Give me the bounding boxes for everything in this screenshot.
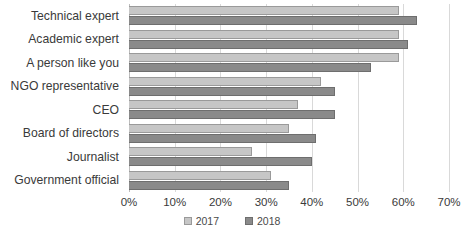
bar-2017-journalist[interactable]	[129, 147, 252, 156]
bar-2018-ceo[interactable]	[129, 110, 335, 119]
legend-item-2018[interactable]: 2018	[245, 216, 280, 227]
legend-swatch-2018-icon	[245, 217, 253, 225]
value-tick-60pct: 60%	[392, 194, 415, 210]
bar-2018-a-person-like-you[interactable]	[129, 63, 371, 72]
category-axis: Technical expert Academic expert A perso…	[0, 4, 124, 192]
value-tick-70pct: 70%	[437, 194, 460, 210]
bar-2017-a-person-like-you[interactable]	[129, 53, 399, 62]
category-label-ceo: CEO	[0, 98, 124, 122]
category-label-academic-expert: Academic expert	[0, 28, 124, 52]
category-label-board-of-directors: Board of directors	[0, 122, 124, 146]
bar-2018-technical-expert[interactable]	[129, 16, 417, 25]
category-label-government-official: Government official	[0, 169, 124, 193]
legend-swatch-2017-icon	[184, 217, 192, 225]
value-tick-40pct: 40%	[300, 194, 323, 210]
bar-2018-government-official[interactable]	[129, 181, 289, 190]
chart-legend: 2017 2018	[0, 216, 464, 227]
value-tick-30pct: 30%	[255, 194, 278, 210]
bar-row	[129, 122, 449, 146]
legend-item-2017[interactable]: 2017	[184, 216, 219, 227]
category-label-journalist: Journalist	[0, 145, 124, 169]
bar-row	[129, 4, 449, 28]
legend-label-2017: 2017	[196, 216, 219, 227]
bar-rows	[129, 4, 449, 192]
bar-2017-academic-expert[interactable]	[129, 30, 399, 39]
bar-row	[129, 51, 449, 75]
bar-2018-board-of-directors[interactable]	[129, 134, 316, 143]
bar-2018-ngo-representative[interactable]	[129, 87, 335, 96]
value-tick-20pct: 20%	[209, 194, 232, 210]
category-label-technical-expert: Technical expert	[0, 4, 124, 28]
bar-2017-ceo[interactable]	[129, 100, 298, 109]
bar-2017-board-of-directors[interactable]	[129, 124, 289, 133]
bar-row	[129, 75, 449, 99]
category-label-ngo-representative: NGO representative	[0, 75, 124, 99]
bar-row	[129, 28, 449, 52]
value-axis: 0%10%20%30%40%50%60%70%	[129, 194, 449, 210]
bar-2018-academic-expert[interactable]	[129, 40, 408, 49]
bar-chart: Technical expert Academic expert A perso…	[0, 0, 464, 238]
bar-2017-government-official[interactable]	[129, 171, 271, 180]
category-label-a-person-like-you: A person like you	[0, 51, 124, 75]
value-tick-10pct: 10%	[163, 194, 186, 210]
value-tick-0pct: 0%	[121, 194, 138, 210]
gridline-70pct	[449, 4, 450, 192]
plot-area	[129, 4, 449, 192]
bar-2017-technical-expert[interactable]	[129, 6, 399, 15]
bar-2018-journalist[interactable]	[129, 157, 312, 166]
legend-label-2018: 2018	[257, 216, 280, 227]
bar-row	[129, 145, 449, 169]
bar-row	[129, 98, 449, 122]
bar-row	[129, 169, 449, 193]
value-tick-50pct: 50%	[346, 194, 369, 210]
bar-2017-ngo-representative[interactable]	[129, 77, 321, 86]
